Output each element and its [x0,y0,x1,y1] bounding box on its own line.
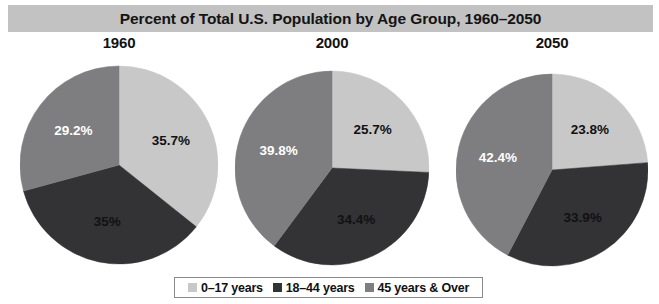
pie-slice-value-label: 34.4% [337,212,375,227]
pie-chart-2000: 200025.7%34.4%39.8% [235,34,429,268]
legend-item: 45 years & Over [365,281,470,295]
pie-chart-2050: 205023.8%33.9%42.4% [456,34,648,268]
pie-slice-value-label: 35.7% [152,133,190,148]
legend-item-label: 18–44 years [286,281,355,295]
pie-graphic-1960: 35.7%35%29.2% [20,34,218,268]
pie-slice-value-label: 25.7% [354,122,392,137]
pie-graphic-2000: 25.7%34.4%39.8% [235,34,429,268]
pie-slice-value-label: 42.4% [479,150,517,165]
legend-item: 18–44 years [273,281,355,295]
chart-root: Percent of Total U.S. Population by Age … [0,0,659,304]
legend-item-label: 45 years & Over [378,281,470,295]
legend-swatch-45-over [365,283,374,292]
pie-slice-value-label: 39.8% [259,143,297,158]
pie-slice-value-label: 35% [94,214,121,229]
pie-slice-value-label: 23.8% [571,122,609,137]
pie-slice-value-label: 29.2% [54,123,92,138]
chart-legend: 0–17 years18–44 years45 years & Over [174,277,483,298]
legend-swatch-0-17 [188,283,197,292]
legend-item: 0–17 years [188,281,263,295]
pie-chart-1960: 196035.7%35%29.2% [20,34,218,268]
chart-title-bar: Percent of Total U.S. Population by Age … [8,5,653,32]
pie-charts-area: 196035.7%35%29.2%200025.7%34.4%39.8%2050… [0,34,659,268]
page-title: Percent of Total U.S. Population by Age … [120,10,542,28]
pie-graphic-2050: 23.8%33.9%42.4% [456,34,648,268]
legend-item-label: 0–17 years [201,281,263,295]
legend-swatch-18-44 [273,283,282,292]
pie-slice-value-label: 33.9% [564,210,602,225]
